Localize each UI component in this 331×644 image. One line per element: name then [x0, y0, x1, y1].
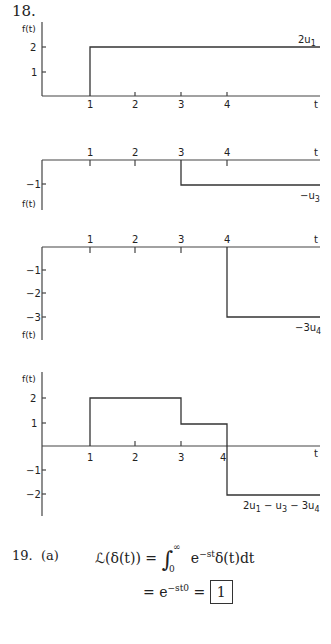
- svg-text:1: 1: [87, 99, 93, 110]
- svg-text:2: 2: [132, 147, 138, 158]
- svg-text:1: 1: [31, 418, 37, 429]
- svg-text:3: 3: [178, 234, 184, 245]
- laplace-line-1: ℒ(δ(t)) = ∫ ∞ 0 e−stδ(t)dt: [95, 543, 254, 568]
- svg-text:−2: −2: [26, 489, 41, 500]
- svg-text:−u3: −u3: [300, 190, 320, 204]
- chart-neg-u3: 1 2 3 4 t −1 f(t) −u3: [0, 110, 331, 210]
- chart-neg-3u4: 1 2 3 4 t −1 −2 −3 f(t) −3u4: [0, 210, 331, 340]
- svg-text:3: 3: [178, 452, 184, 463]
- svg-text:−2: −2: [26, 288, 41, 299]
- svg-text:1: 1: [87, 147, 93, 158]
- laplace-line-2: = e−st0 = 1: [143, 580, 233, 604]
- svg-text:1: 1: [31, 67, 37, 78]
- svg-text:−1: −1: [26, 179, 41, 190]
- svg-text:2: 2: [132, 234, 138, 245]
- svg-text:3: 3: [178, 147, 184, 158]
- svg-text:t: t: [314, 234, 318, 245]
- svg-text:−1: −1: [26, 265, 41, 276]
- chart-2u1: f(t) 2 1 1 2 3 4 t 2u1: [0, 0, 331, 110]
- svg-text:2: 2: [30, 393, 36, 404]
- svg-text:1: 1: [87, 234, 93, 245]
- svg-text:4: 4: [224, 147, 230, 158]
- signal-label: 2u1: [298, 34, 316, 48]
- svg-text:4: 4: [220, 452, 226, 463]
- svg-text:−1: −1: [26, 465, 41, 476]
- chart-combined: f(t) 2 1 −1 −2 1 2 3 4 t 2u1 − u3 − 3u4: [0, 340, 331, 520]
- answer-box: 1: [210, 580, 233, 604]
- svg-text:−3: −3: [26, 312, 41, 323]
- svg-text:1: 1: [87, 452, 93, 463]
- svg-text:4: 4: [224, 99, 230, 110]
- svg-text:2u1 − u3 − 3u4: 2u1 − u3 − 3u4: [243, 500, 320, 514]
- svg-text:f(t): f(t): [22, 374, 36, 384]
- svg-text:f(t): f(t): [22, 330, 36, 340]
- svg-text:2: 2: [30, 42, 36, 53]
- svg-text:t: t: [314, 99, 318, 110]
- svg-text:2: 2: [132, 452, 138, 463]
- problem-19-number: 19. (a): [12, 548, 59, 563]
- svg-text:f(t): f(t): [22, 199, 36, 209]
- svg-text:4: 4: [224, 234, 230, 245]
- svg-text:3: 3: [178, 99, 184, 110]
- svg-text:−3u4: −3u4: [295, 322, 321, 336]
- svg-text:2: 2: [132, 99, 138, 110]
- svg-text:t: t: [314, 448, 318, 459]
- y-axis-label: f(t): [22, 24, 36, 34]
- svg-text:t: t: [314, 147, 318, 158]
